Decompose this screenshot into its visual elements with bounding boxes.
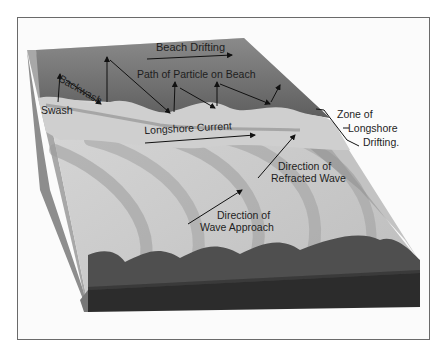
- label-zone-line3: Drifting.: [363, 136, 399, 148]
- label-swash: Swash: [41, 104, 73, 116]
- label-beach-drifting: Beach Drifting: [156, 41, 225, 53]
- label-refracted-line1: Direction of: [278, 160, 331, 172]
- label-zone-line1: Zone of: [337, 108, 373, 120]
- label-approach-line1: Direction of: [217, 209, 270, 221]
- label-zone-line2: Longshore: [348, 122, 398, 134]
- longshore-drift-illustration: [0, 0, 448, 355]
- label-refracted-line2: Refracted Wave: [271, 172, 346, 184]
- label-approach-line2: Wave Approach: [200, 221, 274, 233]
- label-path-of-particle: Path of Particle on Beach: [137, 68, 256, 80]
